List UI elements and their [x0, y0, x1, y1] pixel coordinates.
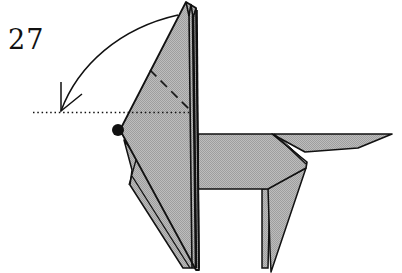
pivot-point-dot	[112, 124, 124, 136]
origami-diagram	[0, 0, 402, 273]
